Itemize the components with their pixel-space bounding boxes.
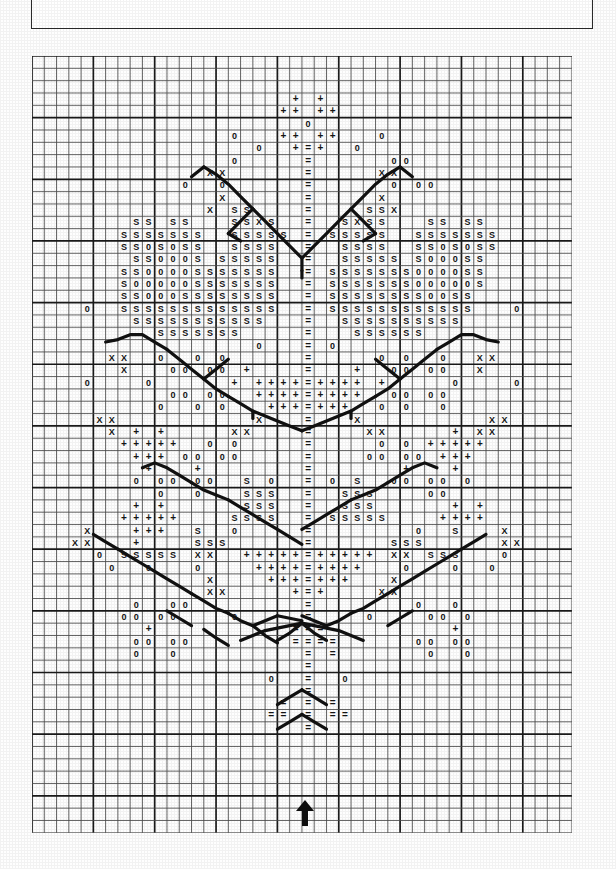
stitch-cell: + bbox=[326, 377, 338, 389]
stitch-cell: X bbox=[228, 426, 240, 438]
stitch-cell: = bbox=[326, 648, 338, 660]
stitch-cell: + bbox=[118, 438, 130, 450]
stitch-cell: X bbox=[216, 167, 228, 179]
stitch-cell: 0 bbox=[192, 451, 204, 463]
stitch-cell: S bbox=[216, 537, 228, 549]
stitch-cell: S bbox=[265, 253, 277, 265]
stitch-cell: 0 bbox=[511, 303, 523, 315]
stitch-cell: S bbox=[228, 266, 240, 278]
stitch-cell: X bbox=[474, 426, 486, 438]
stitch-cell: S bbox=[241, 229, 253, 241]
stitch-cell: X bbox=[486, 352, 498, 364]
stitch-cell: S bbox=[412, 327, 424, 339]
stitch-cell: S bbox=[192, 537, 204, 549]
stitch-cell: S bbox=[204, 315, 216, 327]
stitch-cell: X bbox=[388, 586, 400, 598]
stitch-cell: S bbox=[376, 315, 388, 327]
stitch-cell: S bbox=[179, 229, 191, 241]
stitch-cell: + bbox=[253, 389, 265, 401]
stitch-cell: S bbox=[265, 216, 277, 228]
stitch-cell: 0 bbox=[216, 352, 228, 364]
stitch-cell: + bbox=[400, 463, 412, 475]
stitch-cell: = bbox=[302, 500, 314, 512]
stitch-cell: S bbox=[253, 278, 265, 290]
stitch-cell: 0 bbox=[216, 179, 228, 191]
stitch-cell: + bbox=[155, 451, 167, 463]
stitch-cell: 0 bbox=[167, 636, 179, 648]
stitch-cell: 0 bbox=[412, 179, 424, 191]
stitch-cell: 0 bbox=[179, 179, 191, 191]
stitch-cell: S bbox=[425, 229, 437, 241]
stitch-cell: 0 bbox=[425, 648, 437, 660]
stitch-cell: + bbox=[351, 377, 363, 389]
stitch-cell: + bbox=[192, 463, 204, 475]
stitch-cell: 0 bbox=[412, 525, 424, 537]
stitch-cell: 0 bbox=[425, 389, 437, 401]
stitch-cell: X bbox=[81, 537, 93, 549]
stitch-cell: S bbox=[339, 512, 351, 524]
stitch-cell: + bbox=[118, 512, 130, 524]
stitch-cell: S bbox=[179, 303, 191, 315]
stitch-cell: + bbox=[277, 377, 289, 389]
stitch-cell: + bbox=[277, 574, 289, 586]
stitch-cell: S bbox=[118, 241, 130, 253]
stitch-cell: S bbox=[437, 315, 449, 327]
stitch-cell: S bbox=[241, 475, 253, 487]
stitch-cell: + bbox=[449, 438, 461, 450]
stitch-cell: X bbox=[376, 167, 388, 179]
stitch-cell: S bbox=[192, 290, 204, 302]
stitch-cell: S bbox=[388, 537, 400, 549]
stitch-cell: + bbox=[339, 389, 351, 401]
symbol-layer: ++++++00++++00+=+00=00XX=XX00=000X=XXSS=… bbox=[32, 56, 572, 833]
stitch-cell: S bbox=[388, 303, 400, 315]
stitch-cell: 0 bbox=[130, 611, 142, 623]
stitch-cell: S bbox=[339, 241, 351, 253]
stitch-cell: = bbox=[302, 401, 314, 413]
stitch-cell: 0 bbox=[167, 266, 179, 278]
stitch-cell: S bbox=[130, 266, 142, 278]
stitch-cell: S bbox=[265, 512, 277, 524]
stitch-cell: + bbox=[326, 389, 338, 401]
stitch-cell: S bbox=[339, 266, 351, 278]
stitch-cell: = bbox=[302, 586, 314, 598]
stitch-cell: S bbox=[363, 512, 375, 524]
stitch-cell: S bbox=[265, 278, 277, 290]
stitch-cell: S bbox=[474, 266, 486, 278]
stitch-cell: X bbox=[400, 549, 412, 561]
stitch-cell: = bbox=[302, 340, 314, 352]
stitch-cell: S bbox=[437, 216, 449, 228]
stitch-cell: 0 bbox=[118, 611, 130, 623]
cross-stitch-chart[interactable]: ++++++00++++00+=+00=00XX=XX00=000X=XXSS=… bbox=[32, 56, 572, 833]
stitch-cell: + bbox=[265, 377, 277, 389]
stitch-cell: S bbox=[351, 315, 363, 327]
stitch-cell: X bbox=[388, 167, 400, 179]
stitch-cell: + bbox=[449, 426, 461, 438]
stitch-cell: 0 bbox=[461, 475, 473, 487]
stitch-cell: S bbox=[351, 290, 363, 302]
center-marker-bottom-icon bbox=[295, 800, 315, 826]
stitch-cell: S bbox=[425, 303, 437, 315]
stitch-cell: 0 bbox=[302, 118, 314, 130]
stitch-cell: 0 bbox=[155, 401, 167, 413]
stitch-cell: S bbox=[130, 303, 142, 315]
stitch-cell: S bbox=[241, 266, 253, 278]
stitch-cell: = bbox=[302, 192, 314, 204]
stitch-cell: S bbox=[461, 266, 473, 278]
stitch-cell: S bbox=[142, 229, 154, 241]
stitch-cell: 0 bbox=[449, 278, 461, 290]
stitch-cell: 0 bbox=[425, 278, 437, 290]
stitch-cell: + bbox=[314, 389, 326, 401]
stitch-cell: 0 bbox=[425, 179, 437, 191]
stitch-cell: 0 bbox=[351, 142, 363, 154]
stitch-cell: S bbox=[388, 253, 400, 265]
stitch-cell: 0 bbox=[425, 636, 437, 648]
stitch-cell: S bbox=[130, 241, 142, 253]
stitch-cell: = bbox=[302, 303, 314, 315]
stitch-cell: X bbox=[474, 352, 486, 364]
stitch-cell: = bbox=[302, 562, 314, 574]
stitch-cell: 0 bbox=[437, 389, 449, 401]
stitch-cell: 0 bbox=[437, 475, 449, 487]
stitch-cell: S bbox=[376, 241, 388, 253]
stitch-cell: S bbox=[265, 303, 277, 315]
stitch-cell: S bbox=[363, 204, 375, 216]
